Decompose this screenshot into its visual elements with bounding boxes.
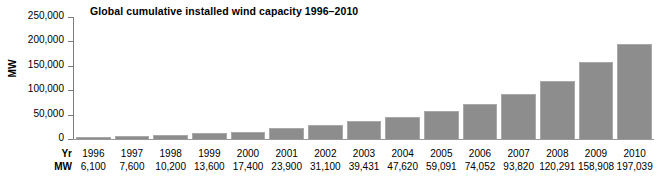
table-cell-year: 2006 (461, 148, 500, 159)
y-axis-tick: 150,000 (0, 66, 73, 67)
data-table: Yr 1996199719981999200020012002200320042… (0, 147, 662, 183)
table-cell-mw: 13,600 (190, 161, 229, 172)
table-cell-mw: 47,620 (383, 161, 422, 172)
y-axis-tick: 100,000 (0, 90, 73, 91)
table-cell-year: 1998 (151, 148, 190, 159)
table-cell-mw: 74,052 (461, 161, 500, 172)
bar (617, 44, 652, 140)
table-cell-year: 2000 (229, 148, 268, 159)
table-cell-mw: 23,900 (267, 161, 306, 172)
bar-slot (306, 17, 345, 140)
table-cell-mw: 59,091 (422, 161, 461, 172)
y-axis-tick-label: 250,000 (28, 10, 64, 21)
bar (424, 111, 459, 140)
bar-slot (577, 17, 616, 140)
chart-title: Global cumulative installed wind capacit… (90, 5, 358, 17)
bar-slot (538, 17, 577, 140)
y-axis-tick: 50,000 (0, 115, 73, 116)
table-row-header-mw: MW (40, 161, 72, 172)
table-cell-year: 2010 (615, 148, 654, 159)
wind-capacity-chart-figure: Global cumulative installed wind capacit… (0, 0, 662, 187)
plot-area (74, 17, 654, 140)
table-cell-year: 2009 (577, 148, 616, 159)
bar-slot (267, 17, 306, 140)
bar-slot (383, 17, 422, 140)
bar (347, 121, 382, 140)
bar (540, 81, 575, 140)
table-cell-mw: 158,908 (577, 161, 616, 172)
table-row-header-yr: Yr (40, 148, 72, 159)
bar-slot (345, 17, 384, 140)
y-axis-tick-label: 100,000 (28, 83, 64, 94)
table-cell-year: 2001 (267, 148, 306, 159)
bar-slot (615, 17, 654, 140)
y-axis-tick-label: 200,000 (28, 34, 64, 45)
table-cell-year: 2004 (383, 148, 422, 159)
table-cell-year: 1996 (74, 148, 113, 159)
bar-slot (461, 17, 500, 140)
table-cell-year: 2008 (538, 148, 577, 159)
y-axis-tick-label: 0 (58, 132, 64, 143)
table-cell-year: 2007 (499, 148, 538, 159)
table-cell-mw: 6,100 (74, 161, 113, 172)
bar-slot (422, 17, 461, 140)
bar-slot (151, 17, 190, 140)
y-axis-tick: 0 (0, 139, 73, 140)
bar-slot (113, 17, 152, 140)
table-cell-mw: 93,820 (499, 161, 538, 172)
bar (501, 94, 536, 140)
bar-slot (229, 17, 268, 140)
table-cell-mw: 10,200 (151, 161, 190, 172)
table-cell-year: 1999 (190, 148, 229, 159)
y-axis-tick-label: 150,000 (28, 59, 64, 70)
y-axis-label: MW (7, 49, 18, 89)
table-cell-mw: 197,039 (615, 161, 654, 172)
bar (385, 117, 420, 140)
bar (463, 104, 498, 140)
table-cell-year: 1997 (113, 148, 152, 159)
table-row: MW 6,1007,60010,20013,60017,40023,90031,… (0, 161, 662, 176)
bar (579, 62, 614, 140)
y-axis-tick: 200,000 (0, 41, 73, 42)
bar-slot (499, 17, 538, 140)
bar-slot (74, 17, 113, 140)
table-cell-mw: 7,600 (113, 161, 152, 172)
bar (308, 125, 343, 140)
y-axis-tick-label: 50,000 (33, 108, 64, 119)
table-cell-year: 2002 (306, 148, 345, 159)
table-cell-mw: 120,291 (538, 161, 577, 172)
table-cell-mw: 31,100 (306, 161, 345, 172)
table-cell-mw: 17,400 (229, 161, 268, 172)
table-cell-year: 2003 (345, 148, 384, 159)
bar-slot (190, 17, 229, 140)
y-axis-tick: 250,000 (0, 17, 73, 18)
table-cell-mw: 39,431 (345, 161, 384, 172)
table-cell-year: 2005 (422, 148, 461, 159)
x-axis-baseline (73, 139, 654, 140)
